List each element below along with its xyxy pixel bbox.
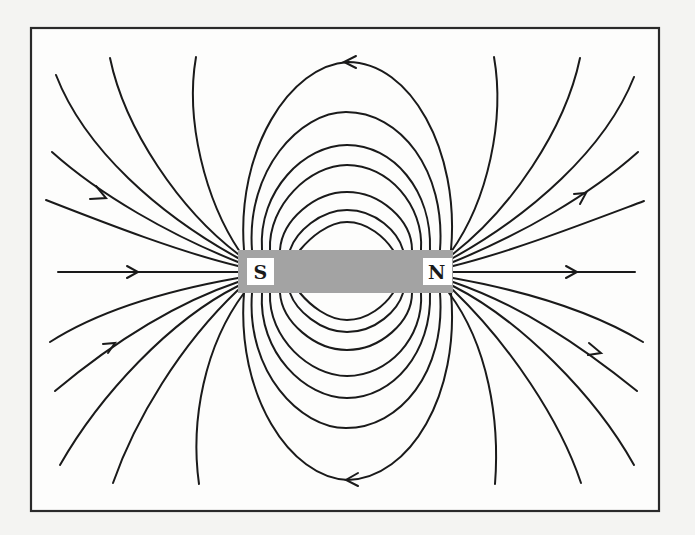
north-pole-label: N [428,261,445,283]
bar-magnet-field-diagram: S N [0,0,695,535]
south-pole-label: S [254,261,268,283]
bar-magnet: S N [238,250,453,293]
